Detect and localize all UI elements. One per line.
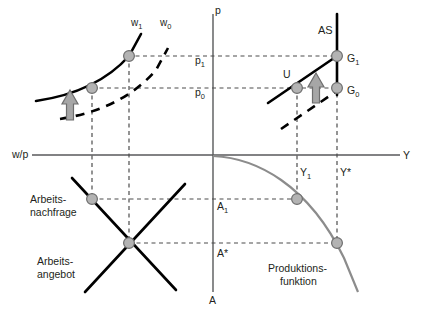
tick-label-astar: A* xyxy=(217,247,228,259)
curve-label-production-line2: funktion xyxy=(280,275,317,287)
curve-label-labor-demand-line1: Arbeits- xyxy=(30,193,67,205)
curve-label-as: AS xyxy=(318,24,333,36)
point-g0 xyxy=(332,83,343,94)
curve-label-labor-demand-line2: nachfrage xyxy=(30,206,77,218)
point-production-ystar xyxy=(332,238,343,249)
curve-label-production-line1: Produktions- xyxy=(268,262,327,274)
point-u xyxy=(292,83,303,94)
axis-label-wp: w/p xyxy=(11,148,29,160)
point-label-u: U xyxy=(283,68,291,80)
axis-label-y: Y xyxy=(403,149,410,161)
economics-four-quadrant-diagram: p Y A w/p p1 p0 Y1 Y* A1 A* w1 w0 AS U G… xyxy=(0,0,421,317)
point-labor-demand-a1 xyxy=(87,194,98,205)
point-w1-upper xyxy=(124,51,135,62)
curve-label-labor-supply-line1: Arbeits- xyxy=(37,255,74,267)
point-production-y1 xyxy=(292,194,303,205)
point-g1 xyxy=(332,51,343,62)
tick-label-ystar: Y* xyxy=(340,166,351,178)
curve-label-labor-supply-line2: angebot xyxy=(37,268,75,280)
axis-label-p: p xyxy=(215,4,221,16)
axis-label-a: A xyxy=(209,294,216,306)
point-labor-equilibrium xyxy=(124,238,135,249)
point-w1-lower xyxy=(87,83,98,94)
